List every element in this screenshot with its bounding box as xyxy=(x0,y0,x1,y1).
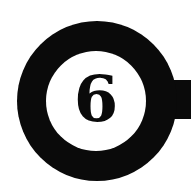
badge-number: 6 xyxy=(74,67,119,131)
number-badge: 6 xyxy=(46,51,146,151)
